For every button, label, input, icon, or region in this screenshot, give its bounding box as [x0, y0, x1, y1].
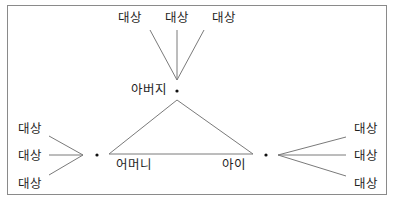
father-target-line-1	[150, 30, 177, 80]
child-target-1: 대상	[354, 123, 378, 136]
child-target-line-1	[278, 137, 346, 155]
father-mother-edge	[109, 100, 177, 154]
mother-target-1: 대상	[18, 123, 42, 136]
child-target-3: 대상	[354, 178, 378, 191]
child-target-line-3	[278, 155, 346, 176]
mother-target-line-3	[49, 155, 83, 175]
child-dot	[264, 153, 267, 156]
mother-target-3: 대상	[18, 178, 42, 191]
father-child-edge	[177, 100, 253, 154]
father-target-3: 대상	[212, 12, 236, 25]
child-label: 아이	[222, 159, 246, 172]
father-target-1: 대상	[118, 12, 142, 25]
father-target-line-3	[177, 30, 204, 80]
child-target-2: 대상	[354, 150, 378, 163]
mother-dot	[95, 153, 98, 156]
father-label: 아버지	[131, 84, 167, 97]
family-triangle-diagram: 대상 대상 대상 아버지 대상 대상 대상 어머니 아이 대상 대상 대상	[0, 0, 394, 205]
mother-target-2: 대상	[18, 150, 42, 163]
mother-label: 어머니	[116, 159, 152, 172]
diagram-lines	[0, 0, 394, 205]
father-target-2: 대상	[165, 12, 189, 25]
father-dot	[175, 89, 178, 92]
mother-target-line-1	[49, 136, 83, 155]
